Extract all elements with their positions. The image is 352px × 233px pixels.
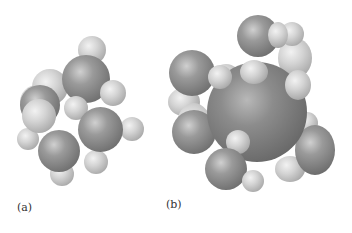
panel-label-b: (b) <box>166 198 182 211</box>
panel-label-a: (a) <box>17 201 32 214</box>
figure: (a) (b) <box>0 0 352 233</box>
atom <box>268 22 288 48</box>
atom <box>84 150 108 174</box>
atom <box>242 170 264 192</box>
atom <box>38 130 80 172</box>
atom <box>205 148 247 190</box>
atom <box>22 99 56 133</box>
atom <box>285 70 311 100</box>
atom <box>208 65 232 89</box>
atom <box>100 80 126 106</box>
atom <box>78 107 123 152</box>
atom <box>120 117 144 141</box>
atom <box>240 60 268 84</box>
